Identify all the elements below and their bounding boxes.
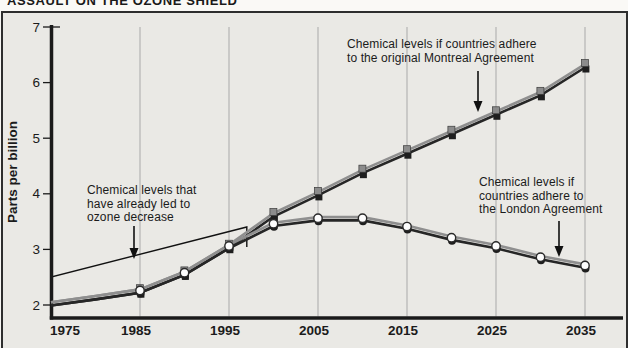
x-tick-label: 1985 <box>121 323 152 338</box>
circle-marker-white <box>314 214 322 222</box>
arrow-ozone-decrease-head <box>130 248 139 259</box>
annotation-line: the London Agreement <box>479 203 602 217</box>
circle-marker-white <box>225 242 233 250</box>
y-tick-label: 2 <box>32 298 40 313</box>
figure-title-partial: ASSAULT ON THE OZONE SHIELD <box>7 0 237 8</box>
annotation-london-agreement: Chemical levels if countries adhere to t… <box>479 176 602 217</box>
annotation-line: Chemical levels if countries adhere <box>347 38 537 52</box>
figure: ASSAULT ON THE OZONE SHIELD 234567197519… <box>0 0 628 348</box>
circle-marker-white <box>536 253 544 261</box>
annotation-line: have already led to <box>87 198 196 212</box>
circle-marker-white <box>358 214 366 222</box>
annotation-montreal-agreement: Chemical levels if countries adhere to t… <box>347 38 537 65</box>
circle-marker-white <box>403 222 411 230</box>
y-tick-label: 7 <box>32 20 40 35</box>
bracket-outline <box>51 227 247 306</box>
annotation-line: to the original Montreal Agreement <box>347 52 537 66</box>
square-marker-gray <box>314 187 321 194</box>
square-marker-gray <box>581 60 588 67</box>
y-tick-label: 5 <box>32 131 40 146</box>
annotation-line: countries adhere to <box>479 190 602 204</box>
annotation-line: Chemical levels that <box>87 184 196 198</box>
square-marker-gray <box>359 165 366 172</box>
annotation-line: Chemical levels if <box>479 176 602 190</box>
square-marker-gray <box>270 209 277 216</box>
circle-marker-white <box>180 269 188 277</box>
x-tick-label: 2005 <box>299 323 330 338</box>
square-marker-gray <box>492 107 499 114</box>
circle-marker-white <box>447 233 455 241</box>
x-tick-label: 2025 <box>477 323 508 338</box>
circle-marker-white <box>581 261 589 269</box>
circle-marker-white <box>269 220 277 228</box>
annotation-ozone-decrease: Chemical levels that have already led to… <box>87 184 196 225</box>
y-tick-label: 3 <box>32 242 40 257</box>
arrow-montreal-head <box>474 101 483 112</box>
x-tick-label: 2015 <box>388 323 419 338</box>
x-tick-label: 2035 <box>566 323 597 338</box>
square-marker-gray <box>403 146 410 153</box>
x-tick-label: 1995 <box>210 323 241 338</box>
annotation-line: ozone decrease <box>87 211 196 225</box>
circle-marker-white <box>492 242 500 250</box>
x-tick-label: 1975 <box>50 323 81 338</box>
square-marker-gray <box>448 126 455 133</box>
figure-header: ASSAULT ON THE OZONE SHIELD <box>0 0 628 11</box>
square-marker-gray <box>537 87 544 94</box>
y-axis-label: Parts per billion <box>5 121 20 223</box>
circle-marker-white <box>136 286 144 294</box>
arrow-london-head <box>555 246 564 257</box>
y-tick-label: 4 <box>32 186 40 201</box>
y-tick-label: 6 <box>32 75 40 90</box>
